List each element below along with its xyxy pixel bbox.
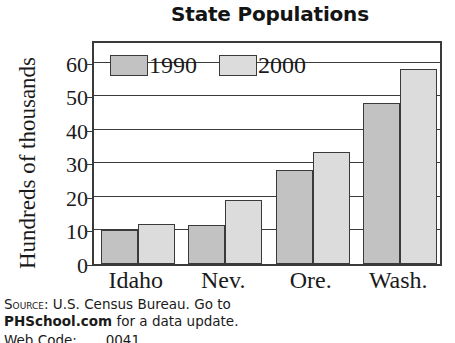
y-tick-mark-10 bbox=[85, 231, 92, 232]
source-line-1-text: U.S. Census Bureau. Go to bbox=[49, 296, 231, 312]
x-axis-category-labels: IdahoNev.Ore.Wash. bbox=[92, 268, 442, 298]
bar-idaho-2000 bbox=[138, 224, 175, 264]
x-label-ore: Ore. bbox=[267, 268, 355, 292]
y-tick-label-20: 20 bbox=[30, 188, 88, 210]
source-note: Source: U.S. Census Bureau. Go to PHScho… bbox=[4, 296, 444, 330]
legend-entry-2000: 2000 bbox=[219, 53, 328, 77]
y-tick-label-10: 10 bbox=[30, 221, 88, 243]
legend-label-2000: 2000 bbox=[258, 53, 306, 77]
legend-swatch-1990 bbox=[110, 55, 148, 76]
bar-idaho-1990 bbox=[101, 230, 138, 264]
bar-nev-1990 bbox=[188, 225, 225, 264]
source-line-1: Source: U.S. Census Bureau. Go to bbox=[4, 296, 444, 313]
source-line-2: PHSchool.com for a data update. bbox=[4, 313, 444, 330]
y-tick-label-50: 50 bbox=[30, 87, 88, 109]
bar-nev-2000 bbox=[225, 200, 262, 264]
y-tick-mark-20 bbox=[85, 198, 92, 199]
y-tick-mark-0 bbox=[85, 265, 92, 266]
source-label: Source: bbox=[4, 296, 49, 312]
bar-ore-2000 bbox=[313, 152, 350, 265]
y-tick-mark-30 bbox=[85, 164, 92, 165]
y-axis-tick-labels: 0102030405060 bbox=[26, 41, 88, 266]
bar-wash-1990 bbox=[363, 103, 400, 264]
source-line-2-text: for a data update. bbox=[112, 313, 238, 329]
bar-group bbox=[357, 43, 445, 264]
y-tick-mark-40 bbox=[85, 131, 92, 132]
x-label-idaho: Idaho bbox=[92, 268, 180, 292]
x-label-nev: Nev. bbox=[180, 268, 268, 292]
x-label-wash: Wash. bbox=[355, 268, 443, 292]
plot-area: 19902000 bbox=[92, 41, 442, 266]
y-tick-label-30: 30 bbox=[30, 154, 88, 176]
phschool-link[interactable]: PHSchool.com bbox=[4, 313, 112, 329]
source-line-3-clipped: Web Code: ___ 0041 bbox=[4, 332, 444, 343]
y-tick-label-40: 40 bbox=[30, 121, 88, 143]
chart-legend: 19902000 bbox=[110, 53, 328, 77]
y-tick-mark-50 bbox=[85, 97, 92, 98]
chart-figure: State Populations Hundreds of thousands … bbox=[0, 0, 455, 343]
y-tick-mark-60 bbox=[85, 64, 92, 65]
legend-label-1990: 1990 bbox=[149, 53, 197, 77]
y-tick-label-60: 60 bbox=[30, 54, 88, 76]
chart-title: State Populations bbox=[100, 2, 440, 26]
legend-entry-1990: 1990 bbox=[110, 53, 219, 77]
bar-ore-1990 bbox=[276, 170, 313, 264]
bar-wash-2000 bbox=[400, 69, 437, 264]
y-tick-label-0: 0 bbox=[30, 255, 88, 277]
legend-swatch-2000 bbox=[219, 55, 257, 76]
